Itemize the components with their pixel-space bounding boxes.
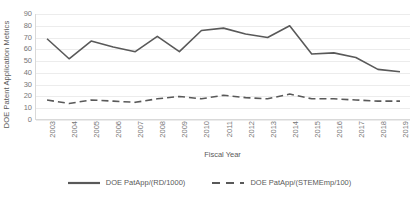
legend-label-rd: DOE PatApp/(RD/1000) xyxy=(106,178,186,187)
y-axis-tick-labels: 0102030405060708090 xyxy=(14,14,34,120)
x-axis-tick-label: 2012 xyxy=(248,121,256,138)
x-axis-tick-labels: 2003200420052006200720082009201020112012… xyxy=(35,121,410,151)
x-axis-tick-label: 2014 xyxy=(292,121,300,138)
x-axis-tick-label: 2006 xyxy=(115,121,123,138)
y-axis-title-label: DOE Patent Application Metrics xyxy=(3,20,12,128)
y-axis-tick-label: 90 xyxy=(24,10,32,18)
legend-label-stememp: DOE PatApp/(STEMEmp/100) xyxy=(250,178,351,187)
x-axis-tick-label: 2016 xyxy=(336,121,344,138)
y-axis-tick-label: 0 xyxy=(28,116,32,124)
y-axis-title: DOE Patent Application Metrics xyxy=(0,0,14,148)
x-axis-title: Fiscal Year xyxy=(35,150,410,159)
x-axis-tick-label: 2011 xyxy=(226,121,234,137)
y-axis-tick-label: 30 xyxy=(24,81,32,89)
legend-line-dashed-icon xyxy=(211,179,245,187)
series-lines xyxy=(36,14,411,120)
x-axis-tick-label: 2003 xyxy=(49,121,57,138)
series-line-rd xyxy=(47,26,400,72)
chart-legend: DOE PatApp/(RD/1000) DOE PatApp/(STEMEmp… xyxy=(0,178,418,187)
y-axis-tick-label: 20 xyxy=(24,92,32,100)
y-axis-tick-label: 80 xyxy=(24,22,32,30)
x-axis-tick-label: 2007 xyxy=(137,121,145,138)
y-axis-tick-label: 40 xyxy=(24,69,32,77)
line-chart: DOE Patent Application Metrics 010203040… xyxy=(0,0,418,206)
x-axis-tick-label: 2008 xyxy=(159,121,167,138)
y-axis-tick-label: 60 xyxy=(24,45,32,53)
x-axis-tick-label: 2015 xyxy=(314,121,322,138)
x-axis-tick-label: 2013 xyxy=(270,121,278,138)
y-axis-tick-label: 70 xyxy=(24,34,32,42)
y-axis-tick-label: 50 xyxy=(24,57,32,65)
x-axis-tick-label: 2010 xyxy=(203,121,211,138)
x-axis-tick-label: 2018 xyxy=(380,121,388,138)
y-axis-tick-label: 10 xyxy=(24,104,32,112)
plot-area xyxy=(35,14,410,120)
legend-item-stememp[interactable]: DOE PatApp/(STEMEmp/100) xyxy=(211,178,351,187)
legend-line-solid-icon xyxy=(67,179,101,187)
legend-item-rd[interactable]: DOE PatApp/(RD/1000) xyxy=(67,178,186,187)
series-line-stememp xyxy=(47,94,400,103)
x-axis-tick-label: 2009 xyxy=(181,121,189,138)
x-axis-tick-label: 2017 xyxy=(358,121,366,138)
x-axis-tick-label: 2019 xyxy=(402,121,410,138)
x-axis-tick-label: 2004 xyxy=(71,121,79,138)
x-axis-tick-label: 2005 xyxy=(93,121,101,138)
